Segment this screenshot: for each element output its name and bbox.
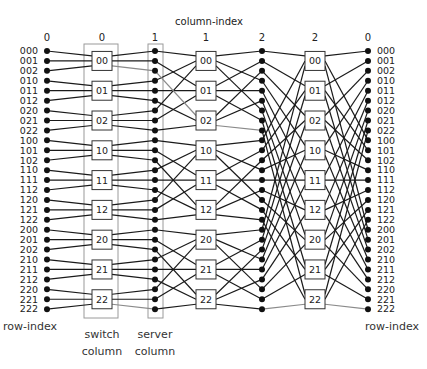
column-index-label: 2 bbox=[312, 32, 318, 43]
server-node bbox=[152, 217, 158, 223]
server-node bbox=[152, 177, 158, 183]
wire bbox=[155, 101, 196, 121]
server-node bbox=[259, 266, 265, 272]
server-node bbox=[152, 187, 158, 193]
switch-2-10: 10 bbox=[305, 141, 325, 160]
server-node bbox=[44, 237, 50, 243]
switch-0-02: 02 bbox=[92, 111, 112, 130]
server-node bbox=[365, 167, 371, 173]
wire bbox=[47, 170, 92, 175]
switch-2-01: 01 bbox=[305, 81, 325, 100]
server-node bbox=[44, 157, 50, 163]
server-node bbox=[365, 306, 371, 312]
switch-label: 10 bbox=[96, 145, 108, 156]
wire bbox=[325, 245, 368, 290]
server-node bbox=[365, 48, 371, 54]
server-node bbox=[259, 108, 265, 114]
server-node bbox=[365, 78, 371, 84]
switch-0-20: 20 bbox=[92, 230, 112, 249]
wire bbox=[47, 185, 92, 190]
wire bbox=[325, 304, 368, 309]
wire bbox=[155, 51, 196, 56]
wire bbox=[216, 215, 262, 220]
server-node bbox=[44, 118, 50, 124]
server-node bbox=[152, 157, 158, 163]
server-node bbox=[259, 306, 265, 312]
wire bbox=[325, 51, 368, 56]
server-node bbox=[44, 187, 50, 193]
column-index-title: column-index bbox=[175, 16, 243, 27]
server-node bbox=[259, 207, 265, 213]
wire bbox=[262, 91, 305, 175]
wire bbox=[262, 185, 305, 269]
switch-1-12: 12 bbox=[196, 200, 216, 219]
switch-label: 10 bbox=[200, 145, 212, 156]
server-node bbox=[44, 48, 50, 54]
wire bbox=[47, 274, 92, 279]
switch-label: 20 bbox=[309, 234, 321, 245]
switch-2-20: 20 bbox=[305, 230, 325, 249]
wire bbox=[47, 304, 92, 309]
switch-label: 21 bbox=[200, 264, 212, 275]
switch-label: 01 bbox=[200, 85, 212, 96]
switch-0-00: 00 bbox=[92, 51, 112, 70]
server-node bbox=[152, 137, 158, 143]
wire bbox=[216, 279, 262, 299]
switch-0-10: 10 bbox=[92, 141, 112, 160]
switch-label: 00 bbox=[200, 55, 212, 66]
server-node bbox=[259, 177, 265, 183]
wire bbox=[155, 126, 196, 131]
wire bbox=[325, 71, 368, 116]
server-node bbox=[365, 177, 371, 183]
switch-label: 00 bbox=[309, 55, 321, 66]
server-node bbox=[44, 88, 50, 94]
wire bbox=[155, 230, 196, 235]
switch-label: 01 bbox=[96, 85, 108, 96]
switch-0-11: 11 bbox=[92, 171, 112, 190]
wire bbox=[216, 101, 262, 121]
server-node bbox=[365, 88, 371, 94]
switch-label: 02 bbox=[309, 115, 321, 126]
server-node bbox=[44, 286, 50, 292]
switch-1-02: 02 bbox=[196, 111, 216, 130]
wire bbox=[47, 260, 92, 265]
server-node bbox=[259, 127, 265, 133]
server-node bbox=[365, 266, 371, 272]
server-node bbox=[152, 257, 158, 263]
server-node bbox=[259, 217, 265, 223]
wire bbox=[325, 185, 368, 269]
server-node bbox=[152, 58, 158, 64]
wire bbox=[47, 289, 92, 294]
server-node bbox=[259, 276, 265, 282]
server-node bbox=[365, 296, 371, 302]
server-node bbox=[259, 68, 265, 74]
server-node bbox=[365, 118, 371, 124]
server-node bbox=[152, 237, 158, 243]
wire bbox=[47, 140, 92, 145]
server-node bbox=[152, 108, 158, 114]
switch-label: 11 bbox=[309, 175, 321, 186]
server-node bbox=[259, 227, 265, 233]
server-node bbox=[152, 98, 158, 104]
server-node bbox=[365, 286, 371, 292]
server-node bbox=[365, 108, 371, 114]
wire bbox=[47, 230, 92, 235]
column-index-label: 1 bbox=[152, 32, 158, 43]
server-node bbox=[152, 127, 158, 133]
column-index-label: 2 bbox=[259, 32, 265, 43]
server-node bbox=[44, 217, 50, 223]
column-index-label: 0 bbox=[44, 32, 50, 43]
server-node bbox=[44, 276, 50, 282]
switch-0-01: 01 bbox=[92, 81, 112, 100]
server-node bbox=[365, 247, 371, 253]
switch-2-11: 11 bbox=[305, 171, 325, 190]
server-node bbox=[44, 108, 50, 114]
server-node bbox=[365, 157, 371, 163]
server-node bbox=[259, 48, 265, 54]
server-column-caption: column bbox=[135, 345, 176, 358]
wire bbox=[262, 304, 305, 309]
server-node bbox=[152, 247, 158, 253]
wire bbox=[47, 66, 92, 71]
server-node bbox=[44, 68, 50, 74]
server-node bbox=[44, 127, 50, 133]
